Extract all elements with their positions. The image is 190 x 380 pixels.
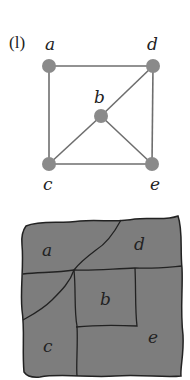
node-label-d: d <box>147 34 158 54</box>
edge-d-e <box>152 66 153 164</box>
figure: (l) a d b c e a d b c e <box>0 0 190 380</box>
node-c <box>42 157 56 171</box>
region-label-c: c <box>43 336 53 356</box>
region-label-d: d <box>134 234 145 254</box>
node-label-e: e <box>150 174 160 194</box>
node-a <box>42 59 56 73</box>
node-label-a: a <box>45 34 55 54</box>
region-label-e: e <box>148 327 158 347</box>
node-b <box>94 109 108 123</box>
node-e <box>145 157 159 171</box>
edge-b-c <box>49 116 101 164</box>
edge-b-e <box>101 116 152 164</box>
region-label-a: a <box>42 240 52 260</box>
edge-d-b <box>101 66 153 116</box>
panel-label: (l) <box>9 33 25 52</box>
region-label-b: b <box>100 289 111 309</box>
node-label-c: c <box>43 174 53 194</box>
map: a d b c e <box>21 216 183 377</box>
node-label-b: b <box>94 87 105 107</box>
node-d <box>146 59 160 73</box>
